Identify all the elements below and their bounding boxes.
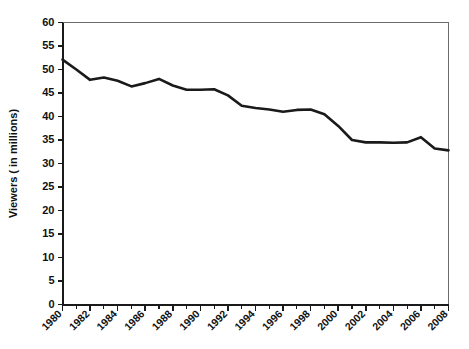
y-axis-tick-label: 40 (42, 110, 54, 122)
x-axis-tick-label: 1986 (122, 307, 147, 332)
y-axis-tick-label: 55 (42, 39, 54, 51)
y-axis-tick-label: 50 (42, 63, 54, 75)
x-axis-tick-label: 1998 (287, 307, 312, 332)
y-axis-tick-label: 5 (48, 274, 54, 286)
x-axis-tick-label: 1980 (39, 307, 64, 332)
x-axis-tick-labels: 1980198219841986198819901992199419961998… (39, 307, 450, 332)
x-axis-tick-label: 1984 (94, 307, 119, 332)
y-axis-tick-label: 35 (42, 133, 54, 145)
y-axis-tick-label: 45 (42, 86, 54, 98)
x-axis-tick-label: 1988 (149, 307, 174, 332)
line-chart: 051015202530354045505560 198019821984198… (0, 0, 469, 349)
y-axis-tick-labels: 051015202530354045505560 (42, 16, 54, 310)
x-axis-tick-label: 1990 (177, 307, 202, 332)
x-axis-tick-label: 2006 (397, 307, 422, 332)
plot-area-border (63, 23, 449, 305)
y-axis-tick-label: 15 (42, 227, 54, 239)
y-axis-tick-label: 25 (42, 180, 54, 192)
x-axis-tick-label: 2000 (315, 307, 340, 332)
y-axis-tick-label: 30 (42, 157, 54, 169)
x-axis-tick-label: 1996 (259, 307, 284, 332)
x-axis-tick-label: 2004 (370, 307, 395, 332)
x-axis-tick-label: 2008 (425, 307, 450, 332)
y-axis-tick-label: 60 (42, 16, 54, 28)
y-axis-tick-label: 10 (42, 251, 54, 263)
chart-container: 051015202530354045505560 198019821984198… (0, 0, 469, 349)
x-axis-tick-label: 1994 (232, 307, 257, 332)
x-axis-tick-label: 1982 (66, 307, 91, 332)
y-axis-title: Viewers ( in millions) (7, 109, 19, 219)
x-axis-tick-label: 1992 (204, 307, 229, 332)
y-axis-tick-label: 20 (42, 204, 54, 216)
x-axis-tick-label: 2002 (342, 307, 367, 332)
